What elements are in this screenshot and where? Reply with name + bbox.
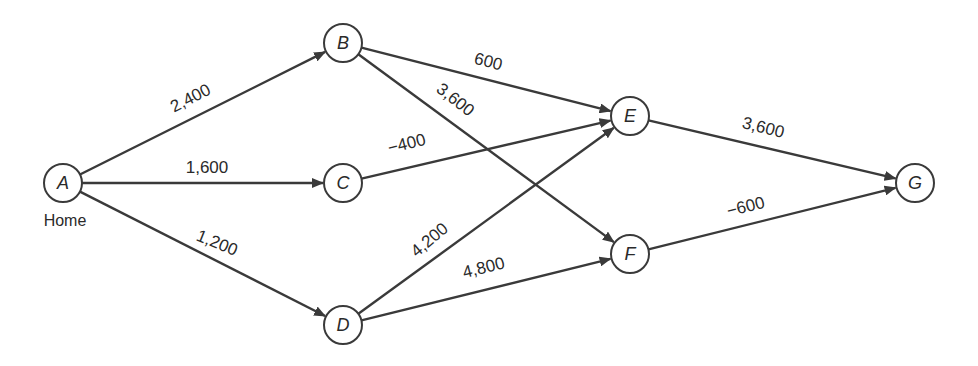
network-diagram: 2,4001,6001,2006003,600−4004,2004,8003,6… bbox=[0, 0, 978, 366]
edge-a-b bbox=[80, 52, 325, 175]
edge-label-e-g: 3,600 bbox=[740, 113, 786, 142]
edge-label-d-f: 4,800 bbox=[461, 253, 507, 282]
node-label: F bbox=[625, 244, 637, 264]
node-g: G bbox=[896, 164, 934, 202]
edge-label-b-e: 600 bbox=[472, 49, 504, 74]
node-label: B bbox=[337, 33, 349, 53]
node-label: C bbox=[337, 173, 351, 193]
node-caption: Home bbox=[44, 212, 87, 229]
node-a: AHome bbox=[44, 164, 87, 229]
edge-label-f-g: −600 bbox=[725, 193, 767, 221]
node-label: D bbox=[337, 315, 350, 335]
node-d: D bbox=[324, 306, 362, 344]
node-label: E bbox=[624, 106, 637, 126]
node-b: B bbox=[324, 24, 362, 62]
edge-a-d bbox=[80, 192, 325, 316]
node-label: G bbox=[908, 173, 922, 193]
node-c: C bbox=[324, 164, 362, 202]
edge-label-c-e: −400 bbox=[386, 130, 428, 158]
edge-label-a-c: 1,600 bbox=[186, 158, 229, 177]
edge-label-a-d: 1,200 bbox=[194, 226, 241, 260]
node-e: E bbox=[611, 97, 649, 135]
edge-label-d-e: 4,200 bbox=[407, 219, 452, 261]
edge-f-g bbox=[648, 188, 895, 250]
node-f: F bbox=[611, 235, 649, 273]
node-label: A bbox=[56, 173, 69, 193]
